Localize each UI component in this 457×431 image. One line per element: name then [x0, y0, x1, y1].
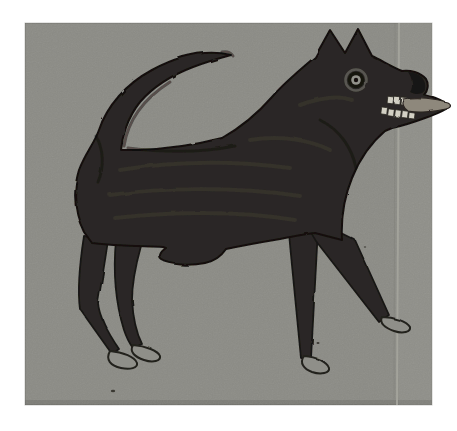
- tooth: [394, 97, 401, 105]
- tooth: [401, 111, 408, 119]
- paper-speck: [364, 246, 366, 248]
- tooth: [395, 110, 402, 118]
- paper-speck: [111, 390, 115, 392]
- tooth: [408, 112, 415, 119]
- paper-speck: [317, 342, 320, 344]
- artwork-photo: [0, 0, 457, 431]
- tooth: [387, 96, 394, 104]
- painting-canvas: [0, 0, 457, 431]
- dog-tongue: [403, 99, 450, 112]
- cardboard-bottom-edge-shadow: [25, 400, 432, 405]
- eye-pupil: [354, 78, 358, 82]
- tooth: [388, 109, 395, 117]
- dog-eye: [346, 70, 367, 91]
- tooth: [381, 107, 388, 115]
